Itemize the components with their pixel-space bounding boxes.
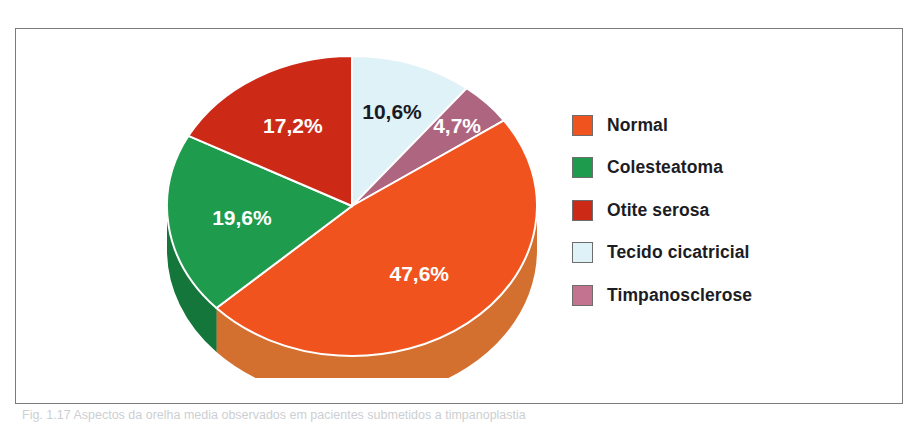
legend-label-timpanosclerose: Timpanosclerose <box>607 285 752 306</box>
pie-label-colesteatoma: 19,6% <box>212 206 272 229</box>
legend-swatch-tecido-cicatricial <box>572 242 593 263</box>
pie-label-otite-serosa: 17,2% <box>263 114 323 137</box>
pie-label-normal: 47,6% <box>389 262 449 285</box>
legend-item-timpanosclerose[interactable]: Timpanosclerose <box>572 274 872 317</box>
legend-item-colesteatoma[interactable]: Colesteatoma <box>572 147 872 190</box>
legend-swatch-otite-serosa <box>572 200 593 221</box>
legend-item-tecido-cicatricial[interactable]: Tecido cicatricial <box>572 232 872 275</box>
legend-swatch-timpanosclerose <box>572 285 593 306</box>
legend-swatch-normal <box>572 115 593 136</box>
figure-root: 10,6%4,7%47,6%19,6%17,2% Normal Colestea… <box>0 0 918 422</box>
legend-swatch-colesteatoma <box>572 157 593 178</box>
figure-caption: Fig. 1.17 Aspectos da orelha media obser… <box>22 409 902 422</box>
legend-label-tecido-cicatricial: Tecido cicatricial <box>607 242 750 263</box>
legend-label-otite-serosa: Otite serosa <box>607 200 709 221</box>
pie-label-timpanosclerose: 4,7% <box>433 114 481 137</box>
figure-caption-text: Fig. 1.17 Aspectos da orelha media obser… <box>22 409 902 422</box>
legend-item-otite-serosa[interactable]: Otite serosa <box>572 189 872 232</box>
legend-label-normal: Normal <box>607 115 668 136</box>
chart-legend: Normal Colesteatoma Otite serosa Tecido … <box>572 104 872 317</box>
pie-label-tecido-cicatricial: 10,6% <box>362 100 422 123</box>
pie-chart-svg: 10,6%4,7%47,6%19,6%17,2% <box>130 38 570 378</box>
legend-item-normal[interactable]: Normal <box>572 104 872 147</box>
legend-label-colesteatoma: Colesteatoma <box>607 157 723 178</box>
